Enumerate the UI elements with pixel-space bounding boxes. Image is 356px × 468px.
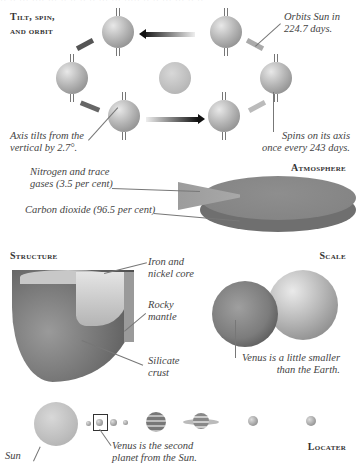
section-heading-structure: Structure: [10, 250, 58, 261]
arrowhead-right-icon: [198, 114, 205, 124]
venus-image: [212, 281, 278, 347]
caption-line: planet from the Sun.: [112, 452, 197, 464]
orbit-arrow-segment-icon: [76, 38, 94, 51]
venus-orbit-position: [100, 8, 136, 54]
section-heading-locater: Locater: [308, 441, 346, 452]
caption-line: Venus is a little smaller: [236, 352, 340, 364]
venus-globe-icon: [108, 100, 140, 132]
sun-icon: [159, 62, 191, 94]
venus-locater-caption: Venus is the second planet from the Sun.: [112, 440, 197, 464]
label-line: Nitrogen and trace: [30, 166, 113, 178]
orbit-caption: Orbits Sun in 224.7 days.: [284, 11, 340, 35]
venus-globe-icon: [210, 16, 242, 48]
leader-line: [33, 446, 41, 461]
venus-globe-icon: [260, 62, 292, 94]
orbit-arrow-left-icon: [143, 32, 195, 37]
carbon-dioxide-label: Carbon dioxide (96.5 per cent): [25, 204, 155, 216]
mercury-icon: [86, 421, 91, 426]
arrowhead-left-icon: [139, 29, 146, 39]
orbit-arrow-segment-icon: [80, 100, 100, 112]
venus-orbit-position: [206, 92, 242, 138]
caption-line: Spins on its axis: [250, 130, 350, 142]
label-line: mantle: [148, 311, 177, 323]
mars-icon: [123, 420, 128, 425]
nitrogen-label: Nitrogen and trace gases (3.5 per cent): [30, 166, 113, 190]
caption-line: Axis tilts from the: [10, 130, 84, 142]
crust-label: Silicate crust: [148, 355, 180, 379]
caption-line: vertical by 2.7°.: [10, 142, 84, 154]
section-heading-atmosphere: Atmosphere: [291, 162, 346, 173]
neptune-icon: [306, 416, 316, 426]
orbit-arrow-segment-icon: [248, 100, 266, 113]
caption-line: Orbits Sun in: [284, 11, 340, 23]
uranus-icon: [248, 416, 258, 426]
leader-line: [99, 429, 111, 446]
core-label: Iron and nickel core: [148, 256, 194, 280]
label-line: nickel core: [148, 268, 194, 280]
jupiter-icon: [146, 412, 166, 432]
heading-line: and orbit: [10, 24, 55, 38]
venus-icon: [96, 419, 103, 426]
heading-line: Tilt, spin,: [10, 10, 55, 24]
spin-caption: Spins on its axis once every 243 days.: [250, 130, 350, 154]
axis-tilt-caption: Axis tilts from the vertical by 2.7°.: [10, 130, 84, 154]
label-line: crust: [148, 367, 180, 379]
section-heading-scale: Scale: [319, 250, 346, 261]
clipped-text-line: ·· ·· ··· ···· ··· ·· ·· ·· ·· ··· ··· ·…: [0, 0, 354, 4]
leader-line: [273, 92, 274, 132]
orbit-arrow-right-icon: [146, 117, 198, 122]
venus-globe-icon: [102, 16, 134, 48]
scale-caption: Venus is a little smaller than the Earth…: [236, 352, 340, 376]
label-line: Iron and: [148, 256, 194, 268]
earth-image: [268, 270, 338, 340]
venus-orbit-position: [54, 54, 90, 100]
earth-icon: [110, 419, 117, 426]
saturn-icon: [193, 413, 209, 429]
venus-globe-icon: [208, 100, 240, 132]
venus-orbit-position: [208, 8, 244, 54]
mantle-label: Rocky mantle: [148, 299, 177, 323]
venus-globe-icon: [56, 62, 88, 94]
section-heading-tilt-spin-orbit: Tilt, spin, and orbit: [10, 10, 55, 38]
sun-label: Sun: [5, 450, 21, 462]
leader-line: [255, 23, 281, 46]
label-line: gases (3.5 per cent): [30, 178, 113, 190]
venus-orbit-position: [258, 54, 294, 100]
caption-line: once every 243 days.: [250, 142, 350, 154]
label-line: Rocky: [148, 299, 177, 311]
rocky-mantle-shape: [124, 272, 134, 342]
label-line: Silicate: [148, 355, 180, 367]
caption-line: than the Earth.: [236, 364, 340, 376]
caption-line: 224.7 days.: [284, 23, 340, 35]
caption-line: Venus is the second: [112, 440, 197, 452]
sun-image: [34, 402, 78, 446]
